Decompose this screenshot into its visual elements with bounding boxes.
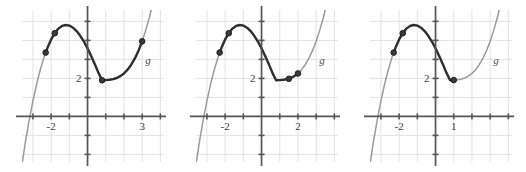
coordinate-plot: -232g — [0, 0, 176, 172]
data-point — [295, 71, 301, 77]
data-point — [400, 30, 406, 36]
marked-points — [43, 30, 145, 83]
x-tick-label: -2 — [47, 120, 56, 132]
x-tick-label: -2 — [395, 120, 404, 132]
function-label-g: g — [145, 54, 151, 66]
data-point — [217, 50, 223, 56]
curve-g-full — [196, 0, 334, 164]
data-point — [99, 78, 105, 84]
data-point — [139, 39, 145, 45]
figure-container: -232g -222g -212g — [0, 0, 526, 172]
axes — [190, 6, 340, 166]
data-point — [391, 50, 397, 56]
curve-g-full — [370, 0, 508, 164]
data-point — [43, 50, 49, 56]
graph-panel-1: -232g — [0, 0, 176, 172]
grid-lines — [22, 10, 164, 162]
x-tick-label: 2 — [295, 120, 301, 132]
data-point — [286, 76, 292, 82]
y-tick-label: 2 — [424, 72, 430, 84]
x-tick-label: 1 — [451, 120, 457, 132]
curve-g-highlighted-arc — [46, 25, 142, 80]
x-tick-label: 3 — [139, 120, 145, 132]
graph-panel-2: -222g — [174, 0, 350, 172]
function-label-g: g — [319, 54, 325, 66]
y-tick-label: 2 — [76, 72, 82, 84]
data-point — [226, 30, 232, 36]
function-label-g: g — [493, 54, 499, 66]
data-point — [52, 30, 58, 36]
grid-lines — [196, 10, 338, 162]
data-point — [451, 77, 457, 83]
coordinate-plot: -212g — [348, 0, 524, 172]
marked-points — [217, 30, 301, 81]
grid-lines — [370, 10, 512, 162]
axes — [364, 6, 514, 166]
x-tick-label: -2 — [221, 120, 230, 132]
curve-g-full — [22, 0, 160, 164]
axes — [16, 6, 166, 166]
y-tick-label: 2 — [250, 72, 256, 84]
graph-panel-3: -212g — [348, 0, 524, 172]
coordinate-plot: -222g — [174, 0, 350, 172]
